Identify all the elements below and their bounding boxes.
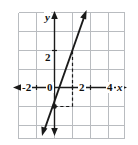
y-tick-label-2: 2: [44, 52, 52, 63]
plotted-line: [41, 10, 86, 136]
line-top-arrowhead: [80, 10, 86, 20]
x-tick-label-4: 4: [106, 82, 114, 93]
line-bottom-arrowhead: [41, 127, 47, 137]
y-axis: [51, 11, 58, 136]
y-axis-bottom-arrowhead: [51, 128, 58, 136]
grid-lines: [19, 13, 125, 139]
y-axis-label: y: [44, 12, 51, 23]
x-tick-label-2: 2: [78, 82, 86, 93]
x-tick-label-0: 0: [46, 82, 54, 93]
plot-area: [0, 0, 138, 145]
x-tick-label-neg2: -2: [21, 82, 32, 93]
coordinate-grid-figure: y x 2 -2 0 2 4: [0, 0, 138, 145]
x-axis-left-arrowhead: [13, 84, 21, 91]
x-axis-label: x: [116, 82, 124, 93]
y-intercept-point: [52, 104, 57, 109]
